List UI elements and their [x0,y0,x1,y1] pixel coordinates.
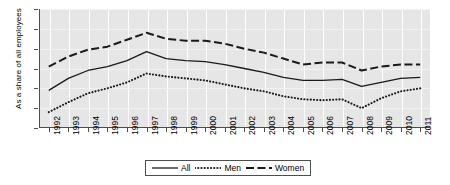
y-axis-tick-mark [34,69,38,70]
y-axis-tick-mark [34,88,38,89]
x-axis-tick-mark [205,128,206,132]
x-axis-tick-mark [88,128,89,132]
legend-label: All [181,163,190,173]
y-axis-tick-mark [34,49,38,50]
y-axis-tick-mark [34,9,38,10]
x-axis-tick-mark [186,128,187,132]
x-axis-tick-mark [303,128,304,132]
x-axis-tick-mark [322,128,323,132]
chart-figure: As a share of all employees 456789101992… [0,0,450,185]
chart-legend: AllMenWomen [145,160,311,176]
x-axis-tick-mark [127,128,128,132]
x-axis-tick-mark [264,128,265,132]
legend-swatch-solid [152,164,178,172]
x-axis-tick-mark [283,128,284,132]
legend-item-all[interactable]: All [152,163,190,173]
legend-swatch-dotted [195,164,221,172]
x-axis-tick-mark [362,128,363,132]
y-axis-tick-mark [34,108,38,109]
series-line-men [49,73,420,112]
x-axis-tick-mark [401,128,402,132]
legend-label: Women [275,163,304,173]
y-axis-tick-mark [34,128,38,129]
legend-item-men[interactable]: Men [195,163,241,173]
x-axis-tick-mark [381,128,382,132]
x-axis-tick-mark [166,128,167,132]
legend-label: Men [224,163,241,173]
legend-swatch-dashed [246,164,272,172]
x-axis-tick-mark [49,128,50,132]
y-axis-tick-mark [34,29,38,30]
x-axis-tick-mark [107,128,108,132]
x-axis-tick-mark [225,128,226,132]
series-layer [39,9,430,128]
x-axis-tick-mark [342,128,343,132]
legend-item-women[interactable]: Women [246,163,304,173]
series-line-all [49,52,420,91]
x-axis-tick-mark [420,128,421,132]
x-axis-tick-mark [68,128,69,132]
x-axis-tick-mark [244,128,245,132]
series-line-women [49,33,420,71]
x-axis-tick-mark [147,128,148,132]
y-axis-title: As a share of all employees [14,0,23,124]
